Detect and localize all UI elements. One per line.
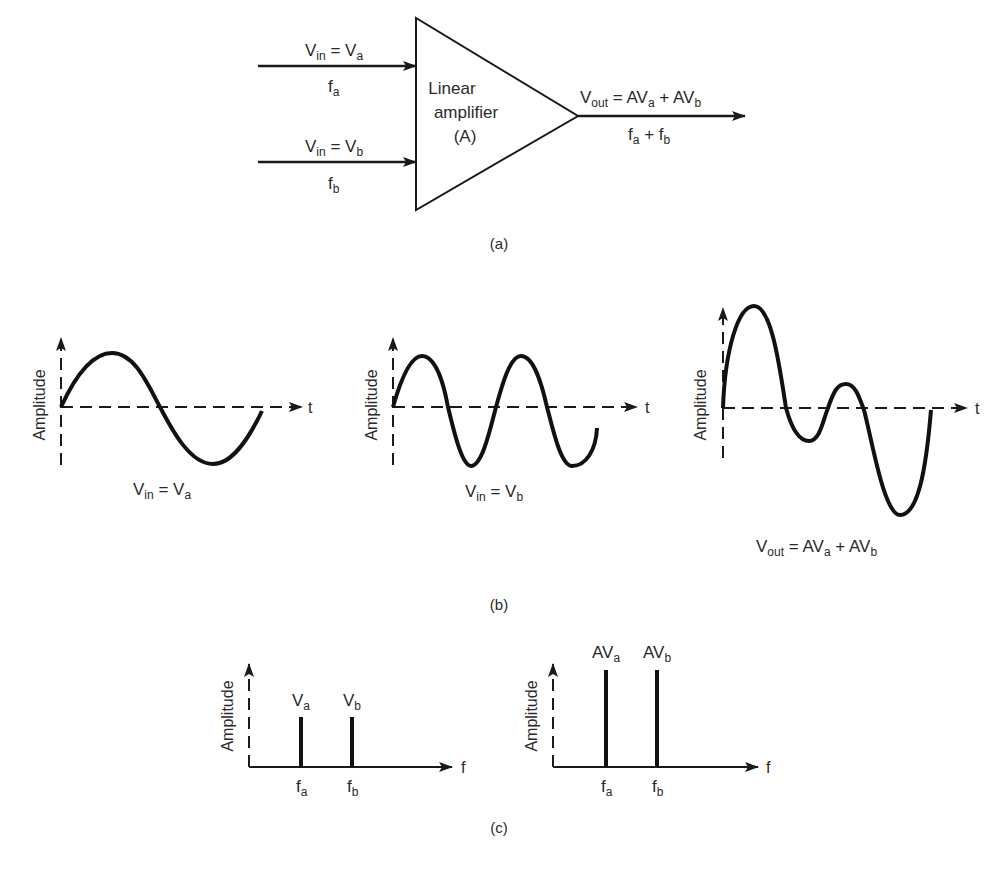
plot-label: Vout = AVa + AVb xyxy=(756,537,877,559)
input-a-freq-label: fa xyxy=(328,77,340,99)
amp-label-3: (A) xyxy=(454,127,477,146)
amp-label-2: amplifier xyxy=(434,103,499,122)
sine-wave-a xyxy=(61,353,262,464)
amp-label-1: Linear xyxy=(428,79,476,98)
output-freq-label: fa + fb xyxy=(628,125,671,147)
caption-b: (b) xyxy=(490,596,508,613)
bar-top-label: Va xyxy=(292,691,310,713)
panel-a: Linear amplifier (A) Vin = Va fa Vin = V… xyxy=(258,18,745,252)
caption-c: (c) xyxy=(490,819,508,836)
panel-c: Amplitude f Va Vb fa fb Amplitude f AVa … xyxy=(219,643,771,836)
input-a-voltage-label: Vin = Va xyxy=(305,41,363,63)
y-axis-label: Amplitude xyxy=(31,369,48,440)
y-axis-label: Amplitude xyxy=(692,369,709,440)
plot-label: Vin = Va xyxy=(133,480,191,502)
bar-top-label: AVa xyxy=(592,643,620,665)
waveform-plot-input-a: Amplitude t Vin = Va xyxy=(31,338,313,502)
y-axis-label: Amplitude xyxy=(219,680,236,751)
waveform-plot-input-b: Amplitude t Vin = Vb xyxy=(363,338,650,504)
bar-bottom-label: fa xyxy=(601,777,613,799)
amplifier-diagram: Linear amplifier (A) Vin = Va fa Vin = V… xyxy=(0,0,999,873)
x-axis-label: t xyxy=(975,400,980,417)
y-axis-label: Amplitude xyxy=(523,680,540,751)
caption-a: (a) xyxy=(490,235,508,252)
bar-bottom-label: fa xyxy=(296,777,308,799)
input-b-voltage-label: Vin = Vb xyxy=(305,137,363,159)
x-axis-label: t xyxy=(308,399,313,416)
panel-b: Amplitude t Vin = Va Amplitude t Vin = V… xyxy=(31,306,980,613)
spectrum-input: Amplitude f Va Vb fa fb xyxy=(219,664,466,799)
bar-top-label: AVb xyxy=(643,643,671,665)
x-axis-label: f xyxy=(766,759,771,776)
y-axis-label: Amplitude xyxy=(363,369,380,440)
bar-top-label: Vb xyxy=(343,691,361,713)
x-axis-label: f xyxy=(461,759,466,776)
plot-label: Vin = Vb xyxy=(465,482,523,504)
sine-wave-b xyxy=(393,356,597,466)
spectrum-output: Amplitude f AVa AVb fa fb xyxy=(523,643,771,799)
waveform-plot-output: Amplitude t Vout = AVa + AVb xyxy=(692,306,980,559)
output-voltage-label: Vout = AVa + AVb xyxy=(580,88,701,110)
composite-wave xyxy=(723,306,931,515)
x-axis-label: t xyxy=(645,399,650,416)
bar-bottom-label: fb xyxy=(652,777,664,799)
bar-bottom-label: fb xyxy=(347,777,359,799)
input-b-freq-label: fb xyxy=(328,174,340,196)
